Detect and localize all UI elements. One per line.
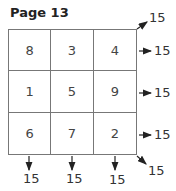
arrow-icon <box>137 22 147 29</box>
row-sum: 15 <box>154 85 171 100</box>
row-sum: 15 <box>154 127 171 142</box>
diag-down-sum: 15 <box>148 163 165 178</box>
row-sum: 15 <box>154 43 171 58</box>
col-sum: 15 <box>109 172 126 187</box>
col-sum: 15 <box>66 171 83 186</box>
arrow-icon <box>137 156 146 164</box>
diag-up-sum: 15 <box>149 10 166 25</box>
col-sum: 15 <box>23 171 40 186</box>
